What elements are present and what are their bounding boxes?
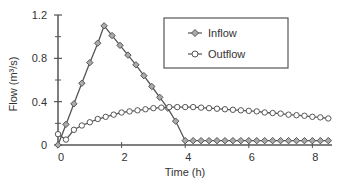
outflow-point (262, 110, 267, 115)
outflow-point (198, 105, 203, 110)
inflow-point (285, 137, 291, 143)
inflow-point (238, 137, 244, 143)
inflow-point (246, 137, 252, 143)
legend-outflow-circle-icon (192, 51, 198, 57)
outflow-point (95, 116, 100, 121)
x-tick-label: 8 (312, 151, 318, 163)
outflow-point (278, 111, 283, 116)
series-outflow (55, 104, 331, 142)
x-tick-label: 6 (249, 151, 255, 163)
inflow-point (214, 137, 220, 143)
inflow-point (87, 59, 93, 65)
inflow-point (301, 137, 307, 143)
inflow-point (79, 80, 85, 86)
outflow-point (71, 127, 76, 132)
outflow-point (294, 113, 299, 118)
inflow-point (262, 137, 268, 143)
outflow-point (167, 104, 172, 109)
outflow-point (55, 131, 60, 136)
outflow-point (310, 114, 315, 119)
flow-chart: 00.40.81.2 02468 Time (h) Flow (m³/s) In… (0, 0, 342, 192)
outflow-point (119, 110, 124, 115)
inflow-point (206, 137, 212, 143)
outflow-point (286, 112, 291, 117)
y-tick-label: 0 (41, 139, 47, 151)
y-tick-label: 0.4 (32, 96, 47, 108)
y-tick-label: 0.8 (32, 52, 47, 64)
x-axis-label: Time (h) (165, 166, 206, 178)
inflow-point (230, 137, 236, 143)
inflow-point (277, 137, 283, 143)
outflow-point (87, 120, 92, 125)
outflow-point (214, 106, 219, 111)
inflow-point (309, 137, 315, 143)
outflow-point (151, 105, 156, 110)
inflow-point (95, 40, 101, 46)
outflow-point (111, 112, 116, 117)
legend-box (164, 18, 288, 68)
outflow-point (183, 104, 188, 109)
outflow-point (246, 108, 251, 113)
inflow-point (325, 137, 331, 143)
inflow-point (317, 137, 323, 143)
legend: Inflow Outflow (164, 18, 288, 68)
outflow-point (159, 105, 164, 110)
outflow-point (127, 109, 132, 114)
x-tick-label: 4 (185, 151, 191, 163)
inflow-point (293, 137, 299, 143)
inflow-point (254, 137, 260, 143)
outflow-point (318, 115, 323, 120)
inflow-point (269, 137, 275, 143)
outflow-point (230, 107, 235, 112)
outflow-point (302, 113, 307, 118)
outflow-point (175, 104, 180, 109)
outflow-point (63, 137, 68, 142)
inflow-point (222, 137, 228, 143)
inflow-point (55, 142, 61, 148)
legend-inflow-label: Inflow (208, 27, 237, 39)
outflow-point (254, 109, 259, 114)
x-tick-label: 2 (122, 151, 128, 163)
outflow-point (103, 114, 108, 119)
legend-outflow-label: Outflow (208, 48, 245, 60)
inflow-point (71, 101, 77, 107)
outflow-point (79, 123, 84, 128)
outflow-point (190, 104, 195, 109)
outflow-point (222, 107, 227, 112)
inflow-point (190, 137, 196, 143)
outflow-point (135, 108, 140, 113)
inflow-point (172, 118, 178, 124)
outflow-point (270, 110, 275, 115)
outflow-point (238, 108, 243, 113)
inflow-point (198, 137, 204, 143)
inflow-point (63, 121, 69, 127)
y-tick-label: 1.2 (32, 9, 47, 21)
outflow-point (206, 105, 211, 110)
x-tick-label: 0 (58, 151, 64, 163)
inflow-point (182, 137, 188, 143)
y-axis-label: Flow (m³/s) (7, 57, 19, 112)
outflow-point (143, 107, 148, 112)
outflow-point (326, 116, 331, 121)
